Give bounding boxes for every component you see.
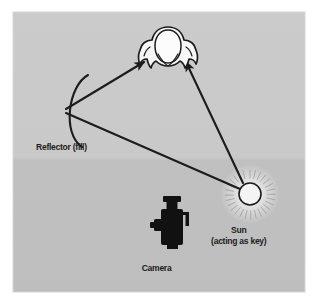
diagram-canvas — [0, 0, 319, 307]
sun-source — [239, 183, 261, 205]
label-sun: Sun (acting as key) — [211, 224, 266, 246]
lighting-diagram-figure: Reflector (fill) Sun (acting as key) Cam… — [0, 0, 319, 307]
label-camera: Camera — [142, 262, 172, 273]
label-sun-line2: (acting as key) — [211, 235, 266, 246]
label-reflector: Reflector (fill) — [36, 141, 87, 152]
label-sun-line1: Sun — [211, 224, 266, 235]
